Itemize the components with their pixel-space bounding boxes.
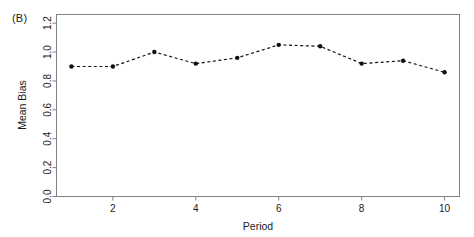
y-axis-title: Mean Bias [16, 80, 28, 130]
y-tick-label: 0.8 [42, 74, 53, 88]
series-line-mean-bias [71, 45, 444, 72]
data-point-period-1 [69, 64, 73, 68]
x-tick-label: 2 [110, 203, 116, 214]
y-tick-label: 0.6 [42, 102, 53, 116]
plot-frame [57, 15, 460, 197]
y-tick-label: 0.0 [42, 189, 53, 203]
x-tick-label: 10 [439, 203, 451, 214]
data-point-period-10 [442, 70, 446, 74]
series-markers [69, 43, 447, 75]
data-point-period-6 [277, 43, 281, 47]
y-tick-label: 1.2 [42, 16, 53, 30]
y-tick-label: 0.4 [42, 131, 53, 145]
data-point-period-9 [401, 59, 405, 63]
y-tick-label: 1.0 [42, 45, 53, 59]
y-axis: 0.00.20.40.60.81.01.2 [42, 16, 57, 204]
data-point-period-5 [235, 56, 239, 60]
x-tick-label: 6 [276, 203, 282, 214]
data-point-period-8 [359, 61, 363, 65]
x-tick-label: 4 [193, 203, 199, 214]
x-tick-label: 8 [359, 203, 365, 214]
data-point-period-4 [194, 61, 198, 65]
figure-panel-b: (B) 0.00.20.40.60.81.01.2 246810 Mean Bi… [0, 0, 474, 237]
data-point-period-7 [318, 44, 322, 48]
data-point-period-3 [152, 50, 156, 54]
y-tick-label: 0.2 [42, 160, 53, 174]
data-point-period-2 [111, 64, 115, 68]
x-axis-title: Period [243, 220, 274, 232]
line-chart: 0.00.20.40.60.81.01.2 246810 Mean Bias P… [0, 0, 474, 237]
x-axis: 246810 [110, 197, 450, 214]
